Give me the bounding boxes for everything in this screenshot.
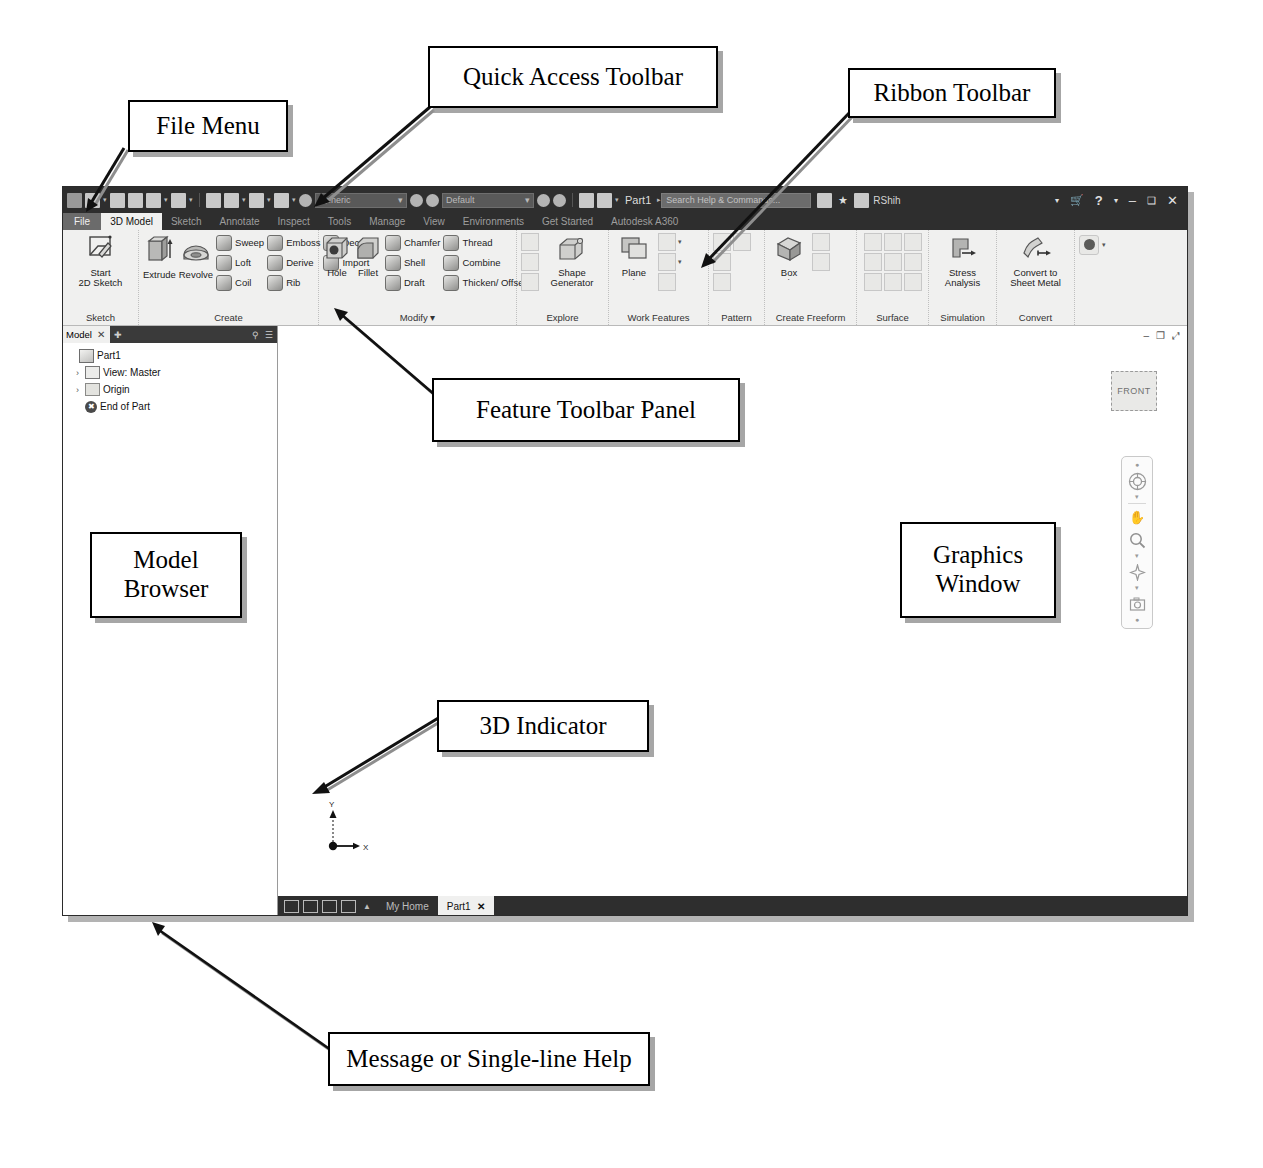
material-combo[interactable]: Generic ▾ [315, 193, 407, 208]
undo-icon[interactable] [146, 193, 161, 208]
full-navigation-wheel-icon[interactable] [1127, 471, 1147, 491]
canvas-close-icon[interactable]: ⤢ [1172, 330, 1180, 342]
close-button[interactable]: ✕ [1167, 193, 1178, 208]
grid-icon[interactable] [303, 900, 318, 913]
camera-icon[interactable] [1127, 594, 1147, 614]
thread-button[interactable]: Thread [443, 233, 526, 252]
extrude-button[interactable]: Extrude [143, 233, 176, 280]
plane-button[interactable]: Plane ˙ [613, 233, 655, 289]
appearance-override-icon[interactable] [1079, 235, 1099, 255]
stitch-icon[interactable] [864, 233, 882, 251]
material-browser-icon[interactable] [410, 194, 423, 207]
update-chevron-down-icon[interactable]: ▾ [267, 196, 271, 204]
document-tab-my-home[interactable]: My Home [377, 896, 438, 916]
model-browser-search-icon[interactable]: ⚲ [252, 330, 259, 340]
canvas-minimize-icon[interactable]: – [1143, 330, 1149, 342]
rectangular-pattern-icon[interactable] [713, 233, 731, 251]
appearance-combo[interactable]: Default ▾ [442, 193, 534, 208]
rib-button[interactable]: Rib [267, 273, 320, 292]
appearance-browser-icon[interactable] [537, 194, 550, 207]
loft-button[interactable]: Loft [216, 253, 264, 272]
appearance-swatch-icon[interactable] [426, 194, 439, 207]
quick-access-toolbar[interactable]: ▾ ▾ ▾ ▾ ▾ ▾ Generic ▾ Default ▾ [63, 193, 619, 208]
tree-node-end-of-part[interactable]: ✖ End of Part [67, 398, 277, 415]
draft-button[interactable]: Draft [385, 273, 440, 292]
point-icon[interactable] [658, 253, 676, 271]
tab-inspect[interactable]: Inspect [269, 213, 319, 230]
combine-button[interactable]: Combine [443, 253, 526, 272]
model-browser-menu-icon[interactable]: ☰ [265, 330, 273, 340]
sculpt-icon[interactable] [884, 233, 902, 251]
canvas-restore-icon[interactable]: ❐ [1156, 330, 1165, 342]
customize-qat-chevron-down-icon[interactable]: ▾ [615, 196, 619, 204]
copy-surface-icon[interactable] [904, 273, 922, 291]
sweep-button[interactable]: Sweep [216, 233, 264, 252]
search-help-input[interactable]: Search Help & Commands... [661, 193, 811, 208]
delete-face-icon[interactable] [521, 253, 539, 271]
list-icon[interactable] [322, 900, 337, 913]
tree-node-origin-chevron-right-icon[interactable]: › [73, 385, 82, 395]
shape-generator-button[interactable]: Shape Generator [542, 233, 602, 289]
document-tabs-expand-icon[interactable]: ▲ [363, 902, 371, 911]
navbar-settings-icon[interactable]: ● [1135, 617, 1139, 623]
help-chevron-down-icon[interactable]: ▾ [1114, 196, 1118, 205]
viewcube[interactable]: FRONT [1111, 371, 1157, 411]
sketch-driven-pattern-icon[interactable] [713, 273, 731, 291]
tree-node-view-master-chevron-right-icon[interactable]: › [73, 368, 82, 378]
tab-get-started[interactable]: Get Started [533, 213, 602, 230]
model-browser-search-bar[interactable]: ✚ ⚲ ☰ [110, 326, 277, 343]
appearance-override-chevron-down-icon[interactable]: ▾ [1102, 241, 1106, 249]
tree-node-origin[interactable]: › Origin [67, 381, 277, 398]
freeform-plane-icon[interactable] [812, 233, 830, 251]
tab-view[interactable]: View [414, 213, 454, 230]
user-avatar-icon[interactable] [854, 193, 869, 208]
minimize-button[interactable]: – [1129, 193, 1136, 208]
patch-icon[interactable] [904, 233, 922, 251]
tab-tools[interactable]: Tools [319, 213, 360, 230]
cart-icon[interactable]: 🛒 [1070, 194, 1084, 207]
circular-pattern-icon[interactable] [713, 253, 731, 271]
tab-environments[interactable]: Environments [454, 213, 533, 230]
maximize-button[interactable]: ❑ [1147, 195, 1156, 206]
tree-node-view-master[interactable]: › View: Master [67, 364, 277, 381]
extend-icon[interactable] [884, 253, 902, 271]
tab-sketch[interactable]: Sketch [162, 213, 211, 230]
ucs-icon[interactable] [658, 273, 676, 291]
split-face-icon[interactable] [521, 233, 539, 251]
favorites-star-icon[interactable]: ★ [838, 194, 848, 207]
fillet-button[interactable]: Fillet [354, 233, 382, 278]
box-dropdown-caret[interactable]: ˙ [787, 278, 790, 289]
home-icon[interactable] [206, 193, 221, 208]
open-file-icon[interactable] [110, 193, 125, 208]
tab-3d-model[interactable]: 3D Model [101, 213, 162, 230]
return-icon[interactable] [224, 193, 239, 208]
pan-icon[interactable]: ✋ [1127, 507, 1147, 527]
start-2d-sketch-button[interactable]: Start 2D Sketch [74, 233, 128, 289]
save-icon[interactable] [128, 193, 143, 208]
derive-button[interactable]: Derive [267, 253, 320, 272]
model-browser-pin-icon[interactable]: ✚ [114, 330, 122, 340]
project-icon[interactable] [274, 193, 289, 208]
undo-chevron-down-icon[interactable]: ▾ [164, 196, 168, 204]
ruled-surface-icon[interactable] [904, 253, 922, 271]
hole-button[interactable]: Hole [323, 233, 351, 278]
coil-button[interactable]: Coil [216, 273, 264, 292]
box-button[interactable]: Box ˙ [769, 233, 809, 289]
navbar-lookat-chevron-down-icon[interactable]: ▾ [1135, 585, 1139, 591]
plus-icon[interactable] [579, 193, 594, 208]
return-chevron-down-icon[interactable]: ▾ [242, 196, 246, 204]
axis-icon[interactable] [658, 233, 676, 251]
stress-analysis-button[interactable]: Stress Analysis [936, 233, 990, 289]
tab-manage[interactable]: Manage [360, 213, 414, 230]
titlebar-chevron-down-icon[interactable]: ▾ [1055, 196, 1059, 205]
new-file-icon[interactable] [85, 193, 100, 208]
revolve-button[interactable]: Revolve [179, 233, 213, 280]
split-icon[interactable] [341, 900, 356, 913]
replace-face-surface-icon[interactable] [884, 273, 902, 291]
tab-annotate[interactable]: Annotate [211, 213, 269, 230]
update-icon[interactable] [249, 193, 264, 208]
document-tab-part1-close-icon[interactable]: ✕ [477, 901, 485, 912]
navbar-wheel-chevron-down-icon[interactable]: ▾ [1135, 494, 1139, 500]
thicken-offset-button[interactable]: Thicken/ Offset [443, 273, 526, 292]
plane-dropdown-caret[interactable]: ˙ [632, 278, 635, 289]
